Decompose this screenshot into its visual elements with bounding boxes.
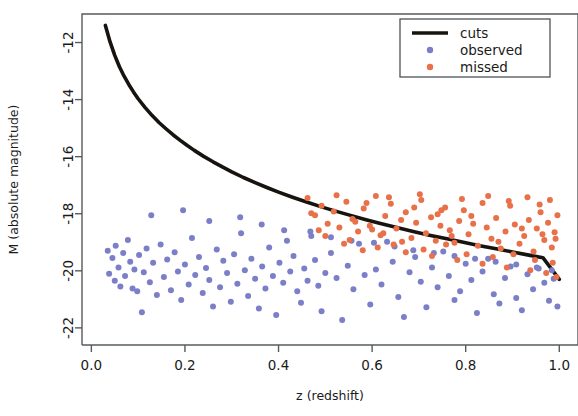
data-point [506, 198, 512, 204]
data-point [259, 264, 265, 270]
data-point [231, 251, 237, 257]
data-point [519, 226, 525, 232]
data-point [485, 193, 491, 199]
data-point [164, 256, 170, 262]
data-point [428, 214, 434, 220]
data-point [451, 240, 457, 246]
data-point [429, 253, 435, 259]
data-point [150, 260, 156, 266]
data-point [464, 251, 470, 257]
data-point [361, 206, 367, 212]
data-point [273, 312, 279, 318]
data-point [554, 303, 560, 309]
data-point [403, 249, 409, 255]
data-point [532, 257, 538, 263]
data-point [287, 268, 293, 274]
y-tick-label: -16 [60, 146, 76, 168]
data-point [490, 254, 496, 260]
data-point [382, 213, 388, 219]
data-point [463, 261, 469, 267]
data-point [545, 220, 551, 226]
data-point [125, 237, 131, 243]
data-point [443, 242, 449, 248]
y-tick-label: -18 [60, 203, 76, 225]
data-point [343, 199, 349, 205]
data-point [352, 219, 358, 225]
data-point [131, 266, 137, 272]
data-point [480, 268, 486, 274]
data-point [541, 280, 547, 286]
data-point [496, 301, 502, 307]
data-point [120, 250, 126, 256]
data-point [423, 230, 429, 236]
x-axis-title: z (redshift) [296, 388, 364, 403]
data-point [322, 233, 328, 239]
data-point [172, 249, 178, 255]
data-point [319, 203, 325, 209]
data-point [390, 259, 396, 265]
data-point [364, 200, 370, 206]
data-point [301, 266, 307, 272]
data-point [360, 247, 366, 253]
data-point [316, 227, 322, 233]
data-point [512, 222, 518, 228]
data-point [182, 262, 188, 268]
data-point [345, 263, 351, 269]
data-point [262, 286, 268, 292]
data-point [421, 246, 427, 252]
data-point [319, 308, 325, 314]
data-point [178, 297, 184, 303]
data-point [305, 278, 311, 284]
data-point [539, 231, 545, 237]
data-point [280, 280, 286, 286]
data-point [553, 236, 559, 242]
data-point [531, 248, 537, 254]
data-point [378, 282, 384, 288]
data-point [537, 202, 543, 208]
data-point [534, 264, 540, 270]
data-point [117, 284, 123, 290]
data-point [347, 237, 353, 243]
y-tick-label: -22 [60, 317, 76, 339]
data-point [418, 279, 424, 285]
legend-swatch-observed [427, 47, 433, 53]
data-point [203, 265, 209, 271]
data-point [435, 211, 441, 217]
data-point [451, 297, 457, 303]
data-point [356, 241, 362, 247]
data-point [334, 275, 340, 281]
data-point [291, 253, 297, 259]
data-point [474, 310, 480, 316]
x-tick-label: 0.4 [268, 357, 289, 373]
data-point [147, 279, 153, 285]
data-point [549, 267, 555, 273]
data-point [298, 300, 304, 306]
data-point [521, 233, 527, 239]
data-point [200, 290, 206, 296]
data-point [538, 209, 544, 215]
data-point [495, 239, 501, 245]
legend-label-missed: missed [460, 59, 508, 75]
data-point [144, 246, 150, 252]
data-point [210, 303, 216, 309]
data-point [106, 271, 112, 277]
data-point [134, 288, 140, 294]
data-point [266, 244, 272, 250]
data-point [158, 242, 164, 248]
data-point [307, 228, 313, 234]
data-point [519, 307, 525, 313]
data-point [380, 230, 386, 236]
data-point [355, 228, 361, 234]
data-point [122, 273, 128, 279]
data-point [440, 248, 446, 254]
data-point [350, 286, 356, 292]
data-point [206, 277, 212, 283]
data-point [127, 259, 133, 265]
data-point [488, 236, 494, 242]
y-axis-title: M (absolute magnitude) [6, 105, 21, 255]
data-point [196, 254, 202, 260]
data-point [491, 291, 497, 297]
data-point [398, 217, 404, 223]
data-point [510, 251, 516, 257]
data-point [493, 215, 499, 221]
